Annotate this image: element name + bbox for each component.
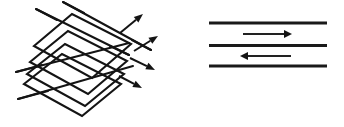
figure-root <box>0 0 344 127</box>
technical-figure <box>0 0 344 127</box>
